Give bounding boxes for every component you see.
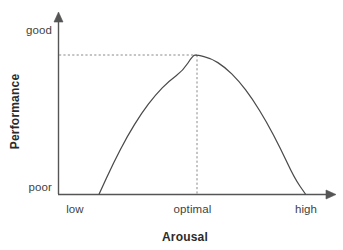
x-axis-title: Arousal xyxy=(135,231,235,244)
y-axis-arrowhead xyxy=(54,12,63,22)
x-tick-label-optimal: optimal xyxy=(162,203,223,216)
x-tick-label-high: high xyxy=(284,203,328,216)
y-tick-label-poor: poor xyxy=(0,181,52,194)
y-axis-title: Performance xyxy=(9,62,22,162)
y-tick-label-good: good xyxy=(0,24,52,37)
yerkes-dodson-chart: good poor low optimal high Arousal Perfo… xyxy=(0,0,343,250)
performance-curve xyxy=(99,55,305,194)
x-tick-label-low: low xyxy=(53,203,97,216)
x-axis-arrowhead xyxy=(326,190,336,199)
